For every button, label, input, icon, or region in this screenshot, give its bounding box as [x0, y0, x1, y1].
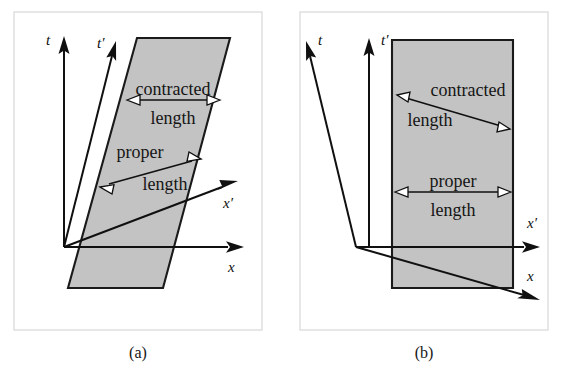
- panel-b-x-axis-label: x: [526, 268, 534, 284]
- panel-b-proper-label-line2: length: [431, 200, 476, 220]
- panel-a-t-prime-axis-label: t′: [97, 35, 105, 51]
- panel-a-contracted-label-line2: length: [151, 108, 196, 128]
- panel-b-contracted-label-line2: length: [408, 110, 453, 130]
- panel-a-contracted-label-line1: contracted: [136, 79, 211, 99]
- panel-a-proper-label-line1: proper: [117, 142, 164, 162]
- panel-b-t-prime-axis-label: t′: [381, 32, 389, 48]
- spacetime-diagram-svg: t t′ x x′: [0, 0, 581, 385]
- panel-b-x-prime-axis-label: x′: [526, 215, 538, 231]
- caption-a: (a): [129, 344, 147, 362]
- panel-b: t t′ x x′: [300, 12, 548, 330]
- panel-a-proper-label-line2: length: [143, 174, 188, 194]
- panel-a: t t′ x x′: [14, 12, 262, 330]
- panel-b-contracted-label-line1: contracted: [431, 80, 506, 100]
- panel-b-proper-worldsheet: [392, 40, 513, 288]
- panel-a-x-axis-label: x: [227, 259, 235, 275]
- panel-a-x-prime-axis-label: x′: [222, 195, 234, 211]
- figure-container: t t′ x x′: [0, 0, 581, 385]
- panel-b-proper-label-line1: proper: [430, 171, 477, 191]
- caption-b: (b): [415, 344, 434, 362]
